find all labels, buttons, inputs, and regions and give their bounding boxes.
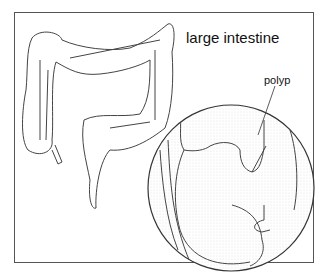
polyp-label: polyp	[264, 74, 290, 86]
large-intestine-label: large intestine	[186, 29, 279, 46]
